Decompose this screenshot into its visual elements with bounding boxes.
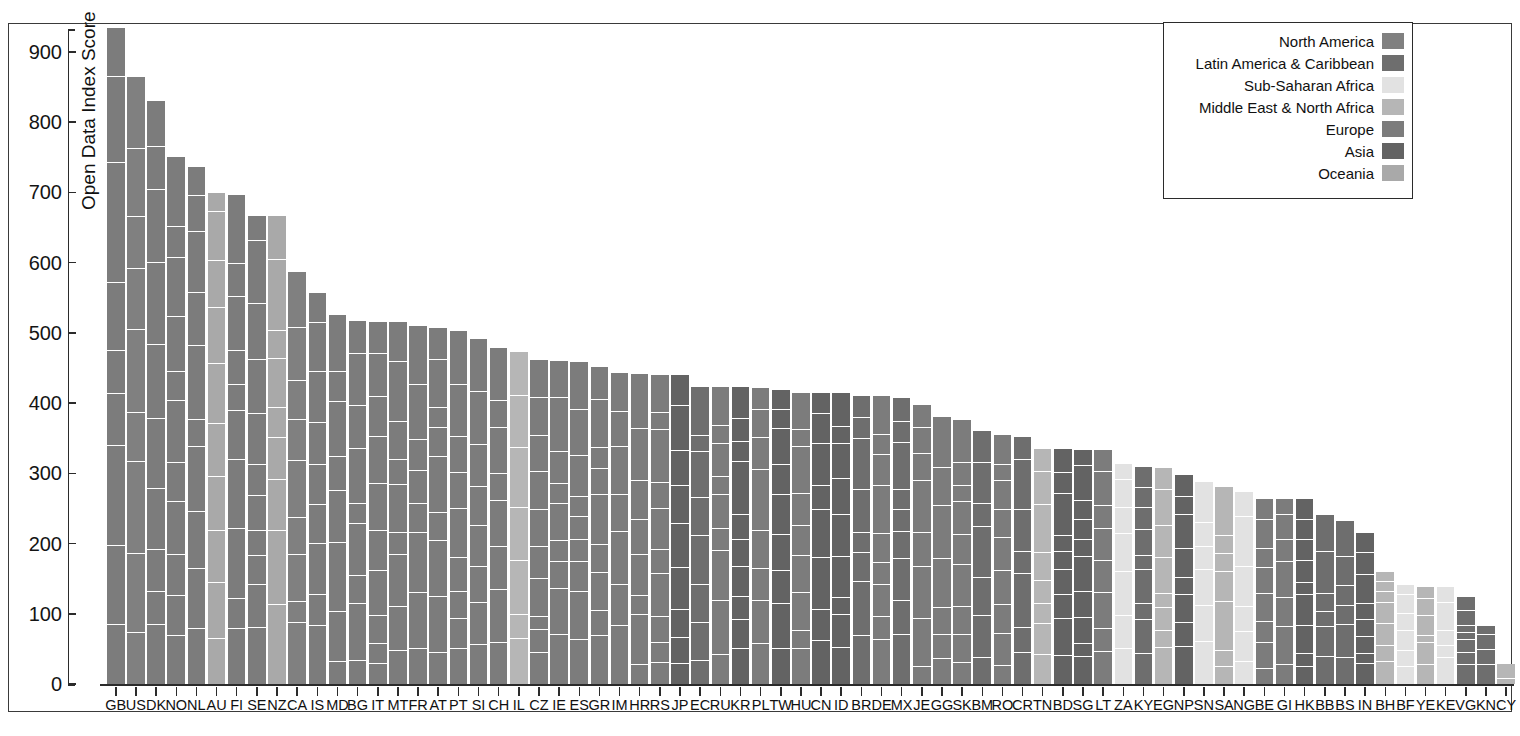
bar-bb[interactable] — [1316, 515, 1334, 684]
bar-eg[interactable] — [1155, 468, 1173, 684]
bar-md[interactable] — [329, 315, 347, 684]
bar-cy[interactable] — [1497, 664, 1515, 684]
bar-cz[interactable] — [530, 360, 548, 684]
bar-je[interactable] — [913, 405, 931, 684]
bar-segment — [450, 649, 468, 684]
bar-se[interactable] — [248, 216, 266, 684]
bar-lt[interactable] — [1094, 450, 1112, 684]
bar-bh[interactable] — [1376, 572, 1394, 684]
bar-pt[interactable] — [450, 331, 468, 684]
bar-nz[interactable] — [268, 216, 286, 684]
bar-segment — [268, 216, 286, 260]
bar-fr[interactable] — [409, 326, 427, 684]
bar-ng[interactable] — [1235, 492, 1253, 684]
bar-id[interactable] — [832, 393, 850, 684]
legend-item-north-america[interactable]: North America — [1170, 30, 1404, 52]
bar-gr[interactable] — [591, 367, 609, 684]
bar-cn[interactable] — [812, 393, 830, 684]
bar-ro[interactable] — [994, 435, 1012, 684]
bar-ky[interactable] — [1135, 467, 1153, 684]
bar-hr[interactable] — [631, 374, 649, 684]
bar-au[interactable] — [208, 192, 226, 684]
bar-us[interactable] — [127, 77, 145, 684]
bar-es[interactable] — [570, 362, 588, 684]
bar-hu[interactable] — [792, 393, 810, 684]
bar-segment — [1074, 592, 1092, 617]
bar-segment — [973, 578, 991, 616]
bar-no[interactable] — [167, 157, 185, 684]
bar-gi[interactable] — [1276, 499, 1294, 684]
bar-dk[interactable] — [147, 101, 165, 684]
bar-sk[interactable] — [953, 420, 971, 684]
bar-bg[interactable] — [349, 321, 367, 684]
bar-br[interactable] — [853, 396, 871, 684]
bar-de[interactable] — [873, 396, 891, 684]
bar-za[interactable] — [1115, 464, 1133, 684]
bar-cr[interactable] — [1014, 437, 1032, 684]
bar-segment — [268, 331, 286, 360]
legend-item-latin-america-caribbean[interactable]: Latin America & Caribbean — [1170, 52, 1404, 74]
bar-si[interactable] — [470, 339, 488, 684]
bar-segment — [973, 504, 991, 527]
bar-segment — [1235, 662, 1253, 684]
bar-ye[interactable] — [1417, 587, 1435, 684]
bar-bd[interactable] — [1054, 449, 1072, 684]
x-axis-tick-labels: GBUSDKNONLAUFISENZCAISMDBGITMTFRATPTSICH… — [100, 697, 1514, 715]
bar-ie[interactable] — [550, 361, 568, 684]
bar-segment — [933, 608, 951, 635]
bar-rs[interactable] — [651, 375, 669, 684]
bar-ca[interactable] — [288, 272, 306, 684]
bar-hk[interactable] — [1296, 499, 1314, 684]
bar-segment — [591, 367, 609, 400]
bar-segment — [288, 518, 306, 555]
legend-item-europe[interactable]: Europe — [1170, 118, 1404, 140]
legend-item-middle-east-north-africa[interactable]: Middle East & North Africa — [1170, 96, 1404, 118]
legend-swatch — [1382, 55, 1404, 71]
bar-bs[interactable] — [1336, 521, 1354, 684]
bar-fi[interactable] — [228, 195, 246, 684]
bar-sn[interactable] — [1195, 482, 1213, 684]
bar-kr[interactable] — [732, 387, 750, 684]
bar-il[interactable] — [510, 352, 528, 684]
bar-segment — [631, 429, 649, 481]
bar-at[interactable] — [429, 328, 447, 684]
bar-tn[interactable] — [1034, 449, 1052, 684]
bar-np[interactable] — [1175, 475, 1193, 684]
legend-item-oceania[interactable]: Oceania — [1170, 162, 1404, 184]
bar-it[interactable] — [369, 322, 387, 684]
bar-segment — [732, 387, 750, 419]
bar-mt[interactable] — [389, 322, 407, 684]
bar-segment — [1034, 449, 1052, 473]
bar-pl[interactable] — [752, 388, 770, 684]
bar-sa[interactable] — [1215, 487, 1233, 684]
bar-segment — [550, 635, 568, 684]
bar-ru[interactable] — [712, 387, 730, 684]
bar-sg[interactable] — [1074, 449, 1092, 684]
bar-segment — [127, 554, 145, 634]
bar-gb[interactable] — [107, 27, 125, 684]
bar-be[interactable] — [1256, 499, 1274, 684]
bar-nl[interactable] — [188, 166, 206, 684]
bar-mx[interactable] — [893, 398, 911, 684]
bar-ec[interactable] — [691, 387, 709, 684]
bar-ke[interactable] — [1437, 587, 1455, 684]
legend-item-sub-saharan-africa[interactable]: Sub-Saharan Africa — [1170, 74, 1404, 96]
bar-segment — [611, 447, 629, 495]
bar-bm[interactable] — [973, 431, 991, 685]
bar-segment — [530, 360, 548, 398]
legend-item-asia[interactable]: Asia — [1170, 140, 1404, 162]
bar-gg[interactable] — [933, 417, 951, 684]
bar-segment — [671, 486, 689, 524]
bar-vg[interactable] — [1457, 597, 1475, 684]
bar-jp[interactable] — [671, 375, 689, 684]
bar-segment — [1094, 629, 1112, 652]
bar-segment — [1296, 626, 1314, 654]
bar-bf[interactable] — [1397, 585, 1415, 684]
bar-kn[interactable] — [1477, 626, 1495, 684]
bar-im[interactable] — [611, 373, 629, 684]
bar-segment — [933, 468, 951, 506]
bar-in[interactable] — [1356, 533, 1374, 684]
bar-ch[interactable] — [490, 348, 508, 684]
bar-tw[interactable] — [772, 390, 790, 684]
bar-is[interactable] — [309, 293, 327, 684]
